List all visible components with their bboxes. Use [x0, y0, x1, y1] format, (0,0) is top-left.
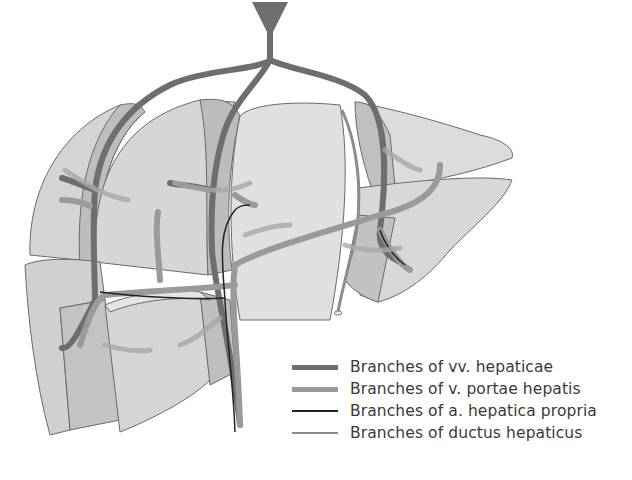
legend-label: Branches of vv. hepaticae — [350, 358, 553, 376]
legend: Branches of vv. hepaticae Branches of v.… — [292, 356, 597, 444]
thick-light-line-swatch — [292, 387, 338, 392]
segment-central — [231, 103, 345, 320]
legend-item-hepatic-artery: Branches of a. hepatica propria — [292, 400, 597, 422]
legend-label: Branches of ductus hepaticus — [350, 424, 582, 442]
thin-black-line-swatch — [292, 410, 338, 412]
legend-item-hepatic-veins: Branches of vv. hepaticae — [292, 356, 597, 378]
legend-item-portal-vein: Branches of v. portae hepatis — [292, 378, 597, 400]
thick-dark-line-swatch — [292, 365, 338, 370]
segment-lower-right — [345, 178, 512, 302]
legend-label: Branches of v. portae hepatis — [350, 380, 581, 398]
legend-label: Branches of a. hepatica propria — [350, 402, 597, 420]
segment-lower-middle — [105, 291, 235, 432]
thin-gray-line-swatch — [292, 432, 338, 434]
legend-item-bile-duct: Branches of ductus hepaticus — [292, 422, 597, 444]
